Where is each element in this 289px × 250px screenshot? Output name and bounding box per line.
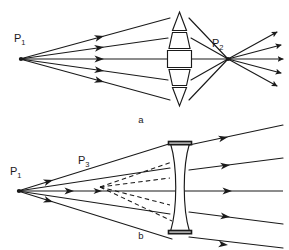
refracted-ray-1 — [189, 18, 228, 59]
incident-ray-b1 — [18, 143, 172, 191]
emergent-ray-b1 — [189, 125, 283, 145]
virtual-ray-4 — [100, 187, 172, 221]
emergent-ray-b5 — [189, 237, 283, 248]
panel-b-incident-rays — [18, 143, 283, 239]
emergent-ray-1 — [228, 32, 277, 59]
virtual-ray-2 — [100, 178, 170, 187]
emergent-ray-5 — [228, 59, 277, 86]
emergent-ray-2 — [228, 45, 281, 59]
arrowhead-icon — [43, 177, 54, 186]
emergent-ray-b4 — [189, 212, 283, 224]
panel-a-group: P1 P2 a — [14, 12, 283, 125]
diverging-lens-assembly — [169, 142, 192, 234]
incident-ray-b5 — [18, 191, 172, 239]
arrowhead-icon — [43, 196, 54, 205]
incident-ray-1 — [20, 18, 170, 59]
label-p2-panel-a: P2 — [212, 37, 224, 52]
source-point-marker-p1 — [19, 57, 23, 61]
virtual-ray-3 — [100, 187, 170, 205]
lens-segment-center-rectangle — [168, 51, 192, 68]
arrowhead-icon — [94, 76, 105, 85]
refracted-ray-5 — [189, 59, 228, 100]
label-p1-panel-b: P1 — [10, 165, 22, 180]
panel-a-incident-rays — [20, 18, 228, 100]
incident-ray-5 — [20, 59, 170, 100]
incident-ray-2 — [20, 38, 168, 59]
biconcave-lens-body — [171, 144, 190, 232]
converging-lens-assembly — [168, 12, 192, 106]
source-point-marker-p1-b — [17, 189, 21, 193]
caption-panel-b: b — [138, 230, 143, 241]
incident-ray-b4 — [18, 191, 170, 214]
label-p3-panel-b: P3 — [78, 154, 90, 169]
incident-ray-b2 — [18, 168, 170, 191]
lens-top-cap — [169, 142, 192, 145]
virtual-ray-1 — [100, 162, 172, 187]
panel-a-emergent-rays — [228, 32, 283, 86]
lens-segment-lower-trapezoid — [169, 70, 190, 86]
arrowhead-icon — [94, 33, 105, 42]
incident-ray-4 — [20, 59, 168, 80]
lens-bottom-cap — [169, 231, 192, 234]
refracted-ray-4 — [191, 59, 228, 80]
caption-panel-a: a — [138, 114, 144, 125]
lens-segment-top-prism — [173, 12, 187, 31]
panel-b-emergent-rays — [189, 125, 283, 248]
emergent-ray-b2 — [189, 158, 283, 170]
optics-figure-container: P1 P2 a — [0, 0, 289, 250]
panel-b-group: P1 P3 b — [10, 125, 283, 248]
lens-segment-bottom-prism — [173, 88, 187, 107]
optics-ray-diagram: P1 P2 a — [0, 0, 289, 250]
label-p1-panel-a: P1 — [14, 32, 26, 47]
emergent-ray-4 — [228, 59, 281, 73]
lens-segment-upper-trapezoid — [169, 33, 190, 49]
